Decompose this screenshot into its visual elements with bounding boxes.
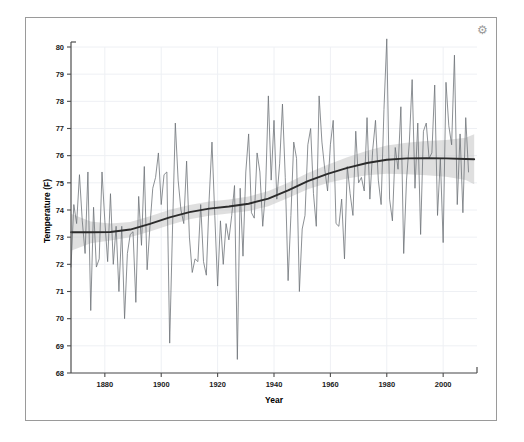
x-tick-label: 1880 xyxy=(96,380,113,389)
y-tick-label: 74 xyxy=(56,206,65,215)
y-tick-label: 70 xyxy=(56,314,64,323)
x-tick-label: 1980 xyxy=(378,380,395,389)
y-tick-label: 78 xyxy=(56,97,64,106)
y-tick-label: 72 xyxy=(56,260,64,269)
gridlines xyxy=(71,47,477,373)
y-tick-label: 76 xyxy=(56,151,64,160)
x-tick-label: 1960 xyxy=(322,380,339,389)
y-axis-ticks: 68697071727374757677787980 xyxy=(56,43,71,378)
y-tick-label: 79 xyxy=(56,70,64,79)
y-axis-title: Temperature (F) xyxy=(42,179,52,243)
x-tick-label: 1900 xyxy=(153,380,170,389)
y-tick-label: 80 xyxy=(56,43,64,52)
y-tick-label: 69 xyxy=(56,342,64,351)
y-tick-label: 68 xyxy=(56,369,64,378)
y-tick-label: 77 xyxy=(56,124,64,133)
x-axis-title: Year xyxy=(265,395,284,405)
y-tick-label: 71 xyxy=(56,287,64,296)
x-tick-label: 1940 xyxy=(266,380,283,389)
y-tick-label: 73 xyxy=(56,233,64,242)
temperature-line-chart: 68697071727374757677787980 1880190019201… xyxy=(0,0,524,442)
chart-screenshot: ⚙ 68697071727374757677787980 18801900192… xyxy=(0,0,524,442)
x-axis-ticks: 1880190019201940196019802000 xyxy=(96,373,451,389)
plot-area: 68697071727374757677787980 1880190019201… xyxy=(0,0,524,442)
x-tick-label: 2000 xyxy=(435,380,452,389)
x-tick-label: 1920 xyxy=(209,380,226,389)
y-tick-label: 75 xyxy=(56,179,64,188)
